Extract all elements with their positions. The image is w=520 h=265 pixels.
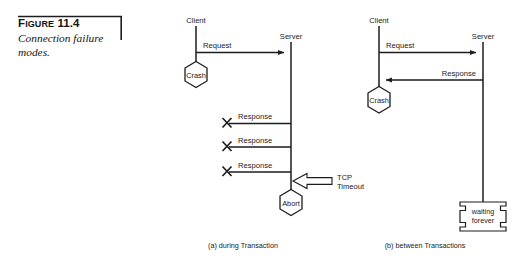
tcp-timeout-block-arrow-icon [293,174,332,189]
tcp-timeout-label-line-1: TCP [337,173,352,182]
panel-sub-caption-a: (a) during Transaction [208,241,278,250]
panel-during-transaction: Client Server Request Crash Response [185,16,365,250]
message-response-2: Response [223,136,292,152]
actor-label-server-b: Server [472,32,495,41]
node-waiting-forever-line-1: waiting [471,207,494,216]
node-crash: Crash [185,62,207,88]
message-response-3-label: Response [238,161,272,170]
node-abort: Abort [280,190,302,216]
panel-between-transactions: Client Server Request Response Crash [368,16,506,250]
blocked-x-icon-2 [223,142,232,152]
message-request-b: Request [379,41,476,53]
actor-label-server: Server [280,32,303,41]
tcp-timeout-label-line-2: Timeout [337,182,365,191]
node-crash-b: Crash [368,87,390,114]
diagram-canvas: Client Server Request Crash Response [0,0,520,265]
message-response-2-label: Response [238,136,272,145]
blocked-x-icon-1 [223,118,232,128]
message-response-1-label: Response [238,112,272,121]
message-response-b: Response [386,69,483,81]
node-waiting-forever: waiting forever [460,202,506,231]
message-request-b-label: Request [386,41,415,50]
actor-label-client-b: Client [369,16,389,25]
node-abort-label: Abort [282,199,300,208]
message-response-1: Response [223,112,292,128]
panel-sub-caption-b: (b) between Transactions [385,241,466,250]
figure-root: FIGURE 11.4 Connection failure modes. Cl… [0,0,520,265]
message-response-3: Response [223,161,292,177]
node-crash-b-label: Crash [369,96,389,105]
message-request-label: Request [203,41,232,50]
node-crash-label: Crash [186,71,206,80]
node-waiting-forever-line-2: forever [472,216,495,225]
figure-rule [18,17,122,41]
message-request: Request [196,41,284,53]
blocked-x-icon-3 [223,167,232,177]
message-response-b-label: Response [442,69,476,78]
actor-label-client: Client [186,16,206,25]
annotation-tcp-timeout: TCP Timeout [293,173,365,191]
